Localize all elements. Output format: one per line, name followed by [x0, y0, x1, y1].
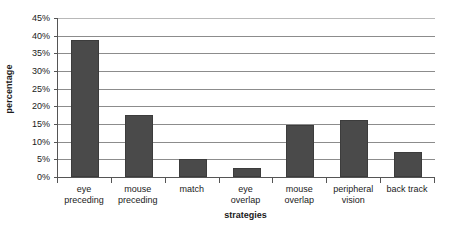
x-axis-category-label-line2: overlap	[220, 195, 272, 206]
x-axis-category-label-line1: mouse	[286, 184, 313, 194]
x-axis-tickmark	[111, 178, 112, 183]
x-axis-category-label: match	[165, 184, 219, 206]
y-axis-tick-label: 20%	[32, 101, 50, 111]
y-axis-tick-label: 0%	[37, 172, 50, 182]
x-axis-tickmark	[326, 178, 327, 183]
bar-slot	[220, 18, 274, 177]
x-axis-tickmark	[434, 178, 435, 183]
x-axis-tickmarks	[57, 178, 435, 183]
x-axis-category-labels: eyeprecedingmouseprecedingmatcheyeoverla…	[57, 184, 434, 206]
bar	[125, 115, 153, 177]
bar	[286, 125, 314, 177]
x-axis-category-label-line1: peripheral	[333, 184, 373, 194]
y-axis-title: percentage	[0, 0, 18, 177]
bar	[394, 152, 422, 177]
y-axis-tick-label: 30%	[32, 66, 50, 76]
x-axis-category-label-line1: eye	[77, 184, 92, 194]
x-axis-category-label-line1: back track	[387, 184, 428, 194]
bar-slot	[327, 18, 381, 177]
x-axis-category-label: back track	[380, 184, 434, 206]
x-axis-category-label: eyepreceding	[57, 184, 111, 206]
bar-series	[58, 18, 435, 177]
x-axis-tickmark	[380, 178, 381, 183]
bar-slot	[166, 18, 220, 177]
x-axis-category-label: peripheralvision	[326, 184, 380, 206]
y-axis-tick-label: 10%	[32, 137, 50, 147]
y-axis-title-label: percentage	[4, 64, 14, 113]
bar	[71, 40, 99, 177]
x-axis-category-label-line2: preceding	[112, 195, 164, 206]
x-axis-category-label: eyeoverlap	[219, 184, 273, 206]
x-axis-tickmark	[219, 178, 220, 183]
x-axis-tickmark	[165, 178, 166, 183]
x-axis-category-label-line2: overlap	[273, 195, 325, 206]
x-axis-tickmark	[57, 178, 58, 183]
bar-slot	[112, 18, 166, 177]
bar-chart: percentage 0%5%10%15%20%25%30%35%40%45% …	[0, 0, 451, 243]
plot-area	[57, 18, 435, 178]
x-axis-category-label-line1: match	[179, 184, 204, 194]
bar	[340, 120, 368, 177]
x-axis-tickmark	[272, 178, 273, 183]
x-axis-category-label: mousepreceding	[111, 184, 165, 206]
x-axis-category-label-line1: eye	[238, 184, 253, 194]
y-axis-tick-label: 25%	[32, 84, 50, 94]
bar	[179, 159, 207, 177]
y-axis-tick-label: 40%	[32, 31, 50, 41]
y-axis-tick-label: 15%	[32, 119, 50, 129]
x-axis-category-label-line1: mouse	[124, 184, 151, 194]
x-axis-title: strategies	[57, 210, 434, 220]
bar-slot	[381, 18, 435, 177]
bar-slot	[273, 18, 327, 177]
y-axis-tick-label: 35%	[32, 48, 50, 58]
y-axis-tick-label: 5%	[37, 154, 50, 164]
y-axis-tick-labels: 0%5%10%15%20%25%30%35%40%45%	[18, 18, 54, 177]
y-axis-tick-label: 45%	[32, 13, 50, 23]
bar-slot	[58, 18, 112, 177]
x-axis-category-label-line2: preceding	[58, 195, 110, 206]
bar	[233, 168, 261, 177]
x-axis-category-label-line2: vision	[327, 195, 379, 206]
x-axis-category-label: mouseoverlap	[272, 184, 326, 206]
